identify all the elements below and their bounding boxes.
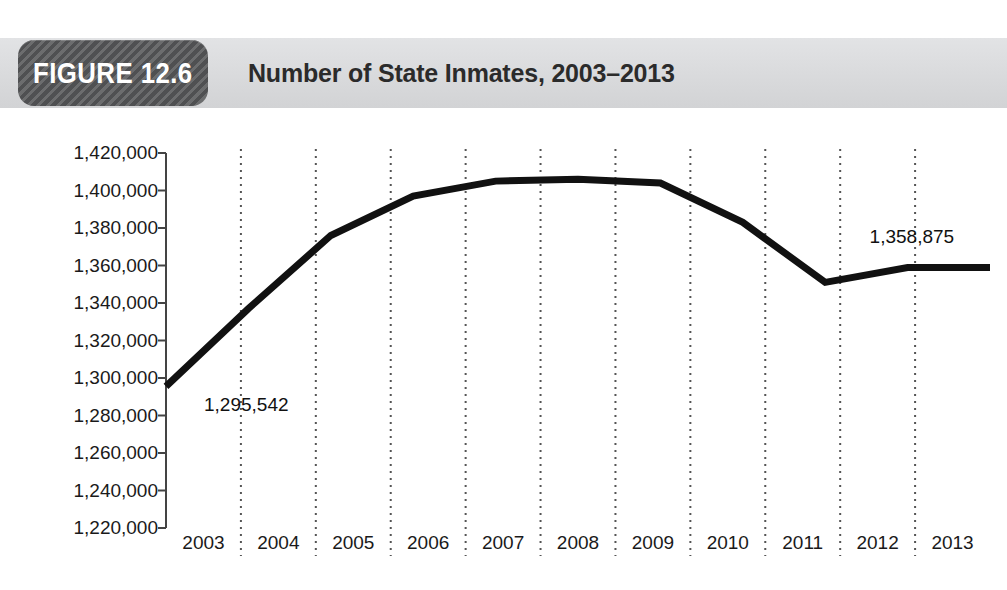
x-axis-tick-label: 2007: [482, 532, 524, 554]
x-axis-tick-label: 2008: [557, 532, 599, 554]
x-axis-tick-label: 2009: [632, 532, 674, 554]
x-axis-tick-label: 2005: [332, 532, 374, 554]
x-axis-tick-label: 2004: [257, 532, 299, 554]
figure-number-badge: FIGURE 12.6: [18, 40, 208, 106]
x-axis-tick-label: 2010: [707, 532, 749, 554]
data-label-last-point: 1,358,875: [870, 226, 955, 248]
figure-title: Number of State Inmates, 2003–2013: [248, 59, 675, 88]
x-axis-tick-label: 2012: [856, 532, 898, 554]
x-axis-tick-label: 2013: [931, 532, 973, 554]
data-label-first-point: 1,295,542: [204, 394, 289, 416]
x-axis-tick-label: 2003: [182, 532, 224, 554]
x-axis-tick-label: 2006: [407, 532, 449, 554]
x-axis-tick-labels: 2003200420052006200720082009201020112012…: [0, 108, 1007, 590]
line-chart: 1,420,0001,400,0001,380,0001,360,0001,34…: [0, 108, 1007, 590]
x-axis-tick-label: 2011: [782, 532, 823, 554]
figure-number-label: FIGURE 12.6: [33, 56, 193, 90]
